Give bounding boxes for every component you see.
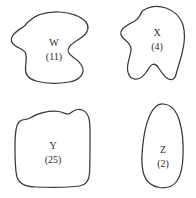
region-y[interactable]: Y (25) (15, 109, 90, 187)
region-y-label: Y (49, 140, 56, 151)
region-x-label: X (153, 27, 161, 38)
region-x-count: (4) (151, 41, 163, 53)
region-z-count: (2) (157, 158, 169, 170)
region-x[interactable]: X (4) (121, 7, 185, 80)
region-z[interactable]: Z (2) (142, 104, 183, 188)
region-y-count: (25) (45, 154, 62, 166)
region-w-label: W (49, 37, 59, 48)
region-z-label: Z (160, 144, 166, 155)
region-w[interactable]: W (11) (11, 12, 88, 83)
set-diagram-canvas: W (11) X (4) Y (25) Z (2) (0, 0, 196, 198)
region-w-count: (11) (46, 51, 62, 63)
